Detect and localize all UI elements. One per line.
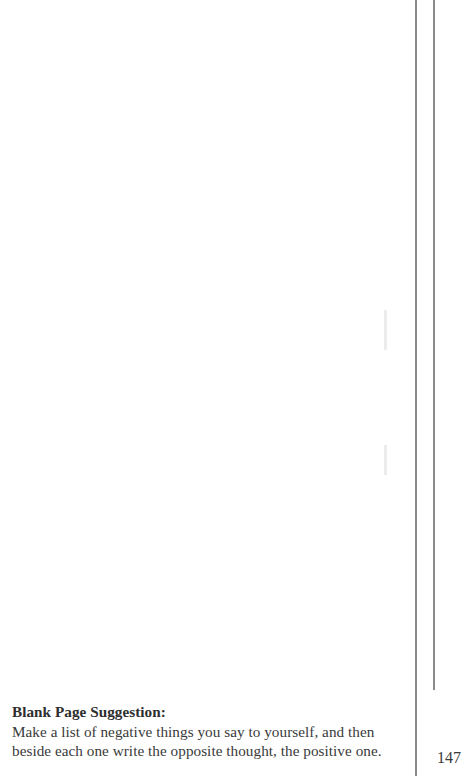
suggestion-body: Make a list of negative things you say t… — [12, 722, 407, 761]
margin-rule-inner — [433, 0, 435, 690]
faint-bleed-mark — [384, 310, 387, 350]
margin-rule-outer — [415, 0, 417, 776]
page-number: 147 — [437, 749, 461, 767]
suggestion-heading: Blank Page Suggestion: — [12, 702, 407, 722]
faint-bleed-mark — [384, 445, 387, 475]
blank-page-suggestion: Blank Page Suggestion: Make a list of ne… — [12, 702, 407, 761]
